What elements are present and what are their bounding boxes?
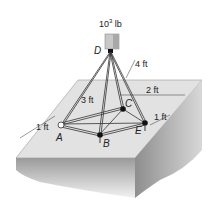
point-label-E: E [135, 126, 142, 136]
diagram-graphic [0, 0, 214, 209]
point-label-A: A [56, 133, 63, 143]
joint-A [58, 122, 64, 128]
dim-2ft: 2 ft [146, 86, 159, 95]
joint-B [97, 132, 103, 138]
dim-4ft: 4 ft [135, 60, 148, 69]
dim-1ft-right: 1 ft [154, 113, 167, 122]
load-label: 103 lb [99, 18, 122, 29]
dim-3ft: 3 ft [81, 96, 94, 105]
slab-front [16, 158, 135, 198]
point-label-B: B [103, 139, 110, 149]
point-label-C: C [125, 99, 132, 109]
truss-diagram: 103 lb D 4 ft 2 ft 3 ft C 1 ft 1 ft A E … [0, 0, 214, 209]
joint-E [142, 120, 148, 126]
dim-1ft-left: 1 ft [36, 123, 49, 132]
point-label-D: D [94, 46, 101, 56]
